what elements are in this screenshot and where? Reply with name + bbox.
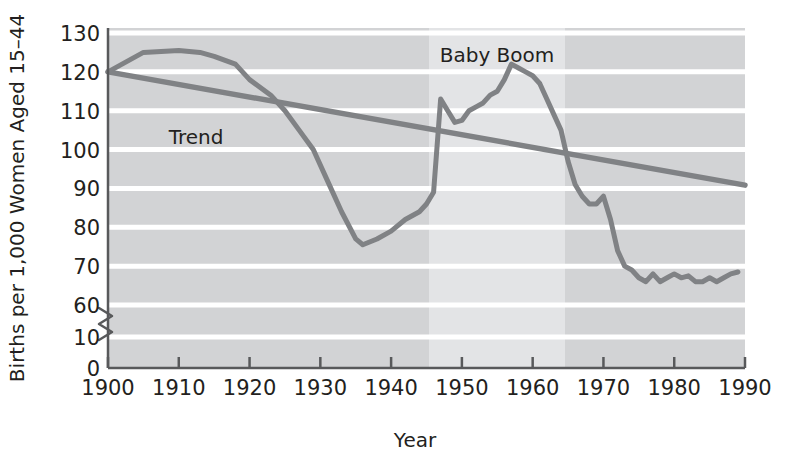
y-tick-label: 90 (73, 177, 100, 201)
y-tick-label: 130 (60, 22, 100, 46)
y-tick-label: 70 (73, 255, 100, 279)
baby-boom-label: Baby Boom (440, 43, 555, 67)
x-axis-title: Year (393, 428, 437, 452)
x-tick-label: 1960 (506, 376, 559, 400)
x-tick-label: 1940 (364, 376, 417, 400)
y-tick-labels-group: 01060708090100110120130 (60, 22, 100, 381)
x-tick-label: 1990 (718, 376, 771, 400)
y-tick-label: 120 (60, 61, 100, 85)
x-tick-label: 1930 (294, 376, 347, 400)
birth-rate-chart: 01060708090100110120130 1900191019201930… (0, 0, 786, 460)
plot-background (108, 28, 745, 368)
y-tick-label: 10 (73, 326, 100, 350)
y-axis-title: Births per 1,000 Women Aged 15–44 (5, 14, 29, 382)
x-tick-label: 1900 (81, 376, 134, 400)
baby-boom-band (429, 28, 565, 368)
x-tick-labels-group: 1900191019201930194019501960197019801990 (81, 376, 771, 400)
y-tick-label: 110 (60, 100, 100, 124)
y-tick-label: 100 (60, 139, 100, 163)
x-tick-label: 1950 (435, 376, 488, 400)
x-tick-label: 1910 (152, 376, 205, 400)
trend-label: Trend (168, 125, 224, 149)
x-tick-label: 1970 (577, 376, 630, 400)
y-tick-label: 80 (73, 216, 100, 240)
chart-svg: 01060708090100110120130 1900191019201930… (0, 0, 786, 460)
y-tick-label: 60 (73, 294, 100, 318)
x-tick-label: 1980 (647, 376, 700, 400)
x-tick-label: 1920 (223, 376, 276, 400)
